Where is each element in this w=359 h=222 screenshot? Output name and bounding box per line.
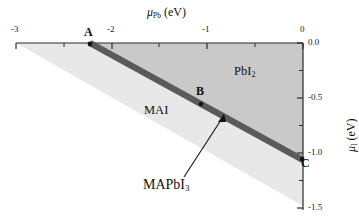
x-tick-label-1: -2 (107, 25, 115, 34)
y-tick-label-0: 0.0 (308, 38, 319, 47)
point-label-c: C (301, 157, 310, 169)
pbi2-label-subscript: 2 (251, 70, 255, 79)
y-tick-label-1: -0.5 (308, 93, 322, 102)
y-axis-subscript: I (350, 143, 359, 146)
x-tick-label-3: 0 (300, 25, 305, 34)
data-point-a (88, 42, 93, 47)
y-axis-title: μI (eV) (345, 118, 359, 152)
x-axis-subscript: Pb (153, 11, 161, 20)
data-point-b (199, 102, 203, 106)
x-tick-label-2: -1 (202, 25, 210, 34)
mapbi3-label-subscript: 3 (185, 183, 190, 193)
y-tick-label-2: -1.0 (308, 148, 322, 157)
y-tick-label-3: -1.5 (308, 203, 322, 212)
point-label-b: B (196, 85, 204, 97)
y-axis-mu-symbol: μ (344, 146, 358, 152)
x-axis-title: μPb (eV) (147, 6, 186, 20)
mapbi3-annotation-label: MAPbI3 (143, 178, 190, 193)
mai-region-label: MAI (144, 104, 168, 117)
point-label-a: A (84, 26, 93, 38)
mapbi3-label-text: MAPbI (143, 177, 185, 192)
pbi2-label-text: PbI (234, 64, 251, 78)
y-axis-unit: (eV) (344, 118, 358, 140)
x-tick-label-0: -3 (11, 25, 19, 34)
x-axis-unit: (eV) (164, 5, 186, 19)
pbi2-region-label: PbI2 (234, 65, 255, 79)
